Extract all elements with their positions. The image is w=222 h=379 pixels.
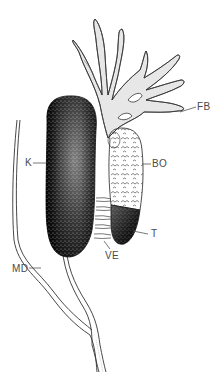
label-testis: T	[151, 229, 157, 239]
leader-ve	[104, 241, 110, 249]
figure-drawing	[0, 0, 222, 379]
kidney	[46, 96, 96, 257]
label-bidders-organ: BO	[152, 159, 167, 169]
label-vasa-efferentia: VE	[105, 251, 119, 261]
anatomical-figure: FB K BO T VE MD	[0, 0, 222, 379]
bidders-organ	[108, 128, 143, 210]
leader-t	[133, 231, 148, 234]
kidney-duct	[62, 240, 106, 372]
label-mesonephric-duct: MD	[12, 264, 28, 274]
vasa-efferentia	[94, 198, 112, 239]
label-fat-body: FB	[197, 102, 210, 112]
label-kidney: K	[25, 158, 32, 168]
testis	[111, 205, 140, 244]
